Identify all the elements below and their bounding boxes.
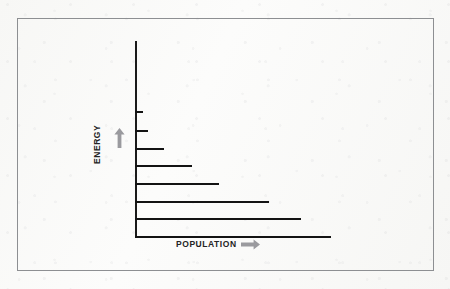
diagram-frame-border xyxy=(17,18,434,271)
page-background: ENERGY POPULATION xyxy=(0,0,450,289)
